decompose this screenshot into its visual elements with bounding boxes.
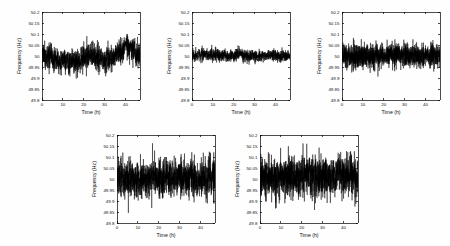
- y-tick-label: 50.2: [331, 10, 340, 15]
- x-tick-label: 10: [360, 102, 365, 107]
- x-tick-label: 0: [191, 102, 194, 107]
- y-axis-title: Frequency (Hz): [91, 161, 97, 197]
- y-tick-label: 50.15: [328, 21, 340, 26]
- y-tick-label: 49.95: [328, 65, 340, 70]
- x-tick-label: 30: [320, 225, 325, 230]
- x-tick-label: 20: [381, 102, 386, 107]
- y-axis-title: Frequency (Hz): [166, 38, 172, 74]
- y-tick-label: 50.15: [246, 144, 258, 149]
- plot-svg: 49.849.8549.949.955050.0550.150.1550.201…: [0, 0, 150, 123]
- y-tick-label: 50: [335, 54, 340, 59]
- x-tick-label: 40: [123, 102, 128, 107]
- y-tick-label: 50.05: [246, 166, 258, 171]
- y-tick-label: 50.15: [103, 144, 115, 149]
- x-tick-label: 0: [341, 102, 344, 107]
- y-tick-label: 50.1: [331, 32, 340, 37]
- chart-panel-5: 49.849.8549.949.955050.0550.150.1550.201…: [218, 123, 368, 246]
- x-tick-label: 10: [135, 225, 140, 230]
- y-tick-label: 49.95: [103, 188, 115, 193]
- x-tick-label: 20: [299, 225, 304, 230]
- x-tick-label: 10: [210, 102, 215, 107]
- y-axis-title: Frequency (Hz): [16, 38, 22, 74]
- x-tick-label: 40: [341, 225, 346, 230]
- y-tick-label: 49.9: [106, 199, 115, 204]
- y-tick-label: 49.9: [331, 76, 340, 81]
- y-tick-label: 50.1: [181, 32, 190, 37]
- frequency-trace: [342, 38, 440, 77]
- y-tick-label: 50.2: [181, 10, 190, 15]
- y-tick-label: 49.9: [31, 76, 40, 81]
- x-axis-title: Time (h): [299, 232, 318, 238]
- x-tick-label: 40: [273, 102, 278, 107]
- y-tick-label: 50.2: [249, 133, 258, 138]
- y-tick-label: 50.1: [106, 155, 115, 160]
- plot-svg: 49.849.8549.949.955050.0550.150.1550.201…: [300, 0, 450, 123]
- frequency-trace: [260, 143, 358, 210]
- y-tick-label: 49.95: [28, 65, 40, 70]
- x-tick-label: 0: [116, 225, 119, 230]
- plot-svg: 49.849.8549.949.955050.0550.150.1550.201…: [75, 123, 225, 246]
- y-tick-label: 49.9: [181, 76, 190, 81]
- frequency-trace: [42, 34, 140, 79]
- x-tick-label: 40: [423, 102, 428, 107]
- y-tick-label: 49.9: [249, 199, 258, 204]
- frequency-trace: [117, 143, 215, 213]
- y-tick-label: 50: [110, 177, 115, 182]
- y-tick-label: 50: [253, 177, 258, 182]
- x-tick-label: 20: [156, 225, 161, 230]
- y-tick-label: 50.05: [28, 43, 40, 48]
- y-tick-label: 50.05: [328, 43, 340, 48]
- x-tick-label: 10: [60, 102, 65, 107]
- y-tick-label: 49.8: [106, 221, 115, 226]
- y-tick-label: 50.1: [31, 32, 40, 37]
- plot-svg: 49.849.8549.949.955050.0550.150.1550.201…: [150, 0, 300, 123]
- x-tick-label: 0: [259, 225, 262, 230]
- x-axis-title: Time (h): [156, 232, 175, 238]
- y-tick-label: 49.85: [246, 210, 258, 215]
- x-tick-label: 20: [81, 102, 86, 107]
- y-tick-label: 50.05: [103, 166, 115, 171]
- y-tick-label: 49.85: [178, 87, 190, 92]
- y-tick-label: 49.85: [28, 87, 40, 92]
- y-tick-label: 49.8: [31, 98, 40, 103]
- x-tick-label: 10: [278, 225, 283, 230]
- multi-panel-figure: 49.849.8549.949.955050.0550.150.1550.201…: [0, 0, 450, 246]
- plot-svg: 49.849.8549.949.955050.0550.150.1550.201…: [218, 123, 368, 246]
- y-tick-label: 50: [185, 54, 190, 59]
- y-tick-label: 50.2: [31, 10, 40, 15]
- x-tick-label: 30: [402, 102, 407, 107]
- x-tick-label: 40: [198, 225, 203, 230]
- y-tick-label: 49.85: [103, 210, 115, 215]
- chart-panel-3: 49.849.8549.949.955050.0550.150.1550.201…: [300, 0, 450, 123]
- y-axis-title: Frequency (Hz): [234, 161, 240, 197]
- x-axis-title: Time (h): [381, 109, 400, 115]
- x-axis-title: Time (h): [81, 109, 100, 115]
- y-tick-label: 50.2: [106, 133, 115, 138]
- y-tick-label: 49.95: [178, 65, 190, 70]
- y-axis-title: Frequency (Hz): [316, 38, 322, 74]
- y-tick-label: 50: [35, 54, 40, 59]
- y-tick-label: 49.95: [246, 188, 258, 193]
- chart-panel-4: 49.849.8549.949.955050.0550.150.1550.201…: [75, 123, 225, 246]
- y-tick-label: 50.15: [28, 21, 40, 26]
- y-tick-label: 50.15: [178, 21, 190, 26]
- x-axis-title: Time (h): [231, 109, 250, 115]
- chart-panel-2: 49.849.8549.949.955050.0550.150.1550.201…: [150, 0, 300, 123]
- y-tick-label: 50.1: [249, 155, 258, 160]
- y-tick-label: 49.8: [249, 221, 258, 226]
- x-tick-label: 20: [231, 102, 236, 107]
- x-tick-label: 30: [252, 102, 257, 107]
- x-tick-label: 0: [41, 102, 44, 107]
- chart-panel-1: 49.849.8549.949.955050.0550.150.1550.201…: [0, 0, 150, 123]
- x-tick-label: 30: [102, 102, 107, 107]
- y-tick-label: 49.8: [181, 98, 190, 103]
- y-tick-label: 49.8: [331, 98, 340, 103]
- y-tick-label: 49.85: [328, 87, 340, 92]
- y-tick-label: 50.05: [178, 43, 190, 48]
- x-tick-label: 30: [177, 225, 182, 230]
- frequency-trace: [192, 45, 290, 65]
